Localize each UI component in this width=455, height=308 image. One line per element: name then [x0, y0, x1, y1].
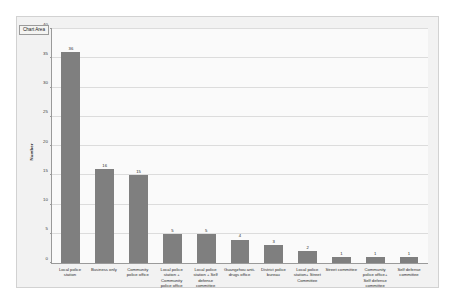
chart-area-tooltip: Chart Area [19, 25, 49, 35]
y-tick-label: 5 [46, 227, 48, 231]
x-axis-label: Local police station [53, 265, 87, 289]
x-axis-label: Business only [87, 265, 121, 289]
bar-slot: 16 [88, 29, 122, 263]
bar-value-label: 1 [408, 252, 410, 256]
bar[interactable]: 36 [61, 52, 80, 263]
y-axis-title: Number [29, 143, 34, 160]
bar[interactable]: 5 [163, 234, 182, 263]
bar[interactable]: 16 [95, 169, 114, 263]
bar-slot: 3 [257, 29, 291, 263]
bar-slot: 5 [189, 29, 223, 263]
chart-area[interactable]: Chart Area Number 0510152025303540 36161… [16, 16, 439, 288]
x-axis-label: Local police station+ Street Committee [290, 265, 324, 289]
bar-slot: 1 [392, 29, 426, 263]
bar[interactable]: 15 [129, 175, 148, 263]
bar-value-label: 15 [136, 170, 141, 174]
bar[interactable]: 4 [231, 240, 250, 263]
x-axis-label: Local police station + Community police … [155, 265, 189, 289]
y-tick-label: 25 [43, 110, 48, 114]
bar[interactable]: 2 [298, 251, 317, 263]
bar[interactable]: 1 [400, 257, 419, 263]
bar-value-label: 16 [102, 164, 107, 168]
y-tick-label: 35 [43, 52, 48, 56]
bar-value-label: 2 [306, 246, 308, 250]
y-tick-label: 30 [43, 81, 48, 85]
bar-slot: 36 [54, 29, 88, 263]
x-axis-label: District police bureau [256, 265, 290, 289]
bar-slot: 15 [122, 29, 156, 263]
bar[interactable]: 3 [264, 245, 283, 263]
bar-value-label: 5 [205, 229, 207, 233]
x-axis-label: Street committee [324, 265, 358, 289]
y-tick-label: 20 [43, 139, 48, 143]
bar-value-label: 3 [273, 240, 275, 244]
bar-slot: 4 [223, 29, 257, 263]
bar[interactable]: 1 [332, 257, 351, 263]
plot-area[interactable]: 0510152025303540 36161555432111 [51, 29, 428, 264]
bar-series[interactable]: 36161555432111 [52, 29, 428, 263]
y-tick-label: 10 [43, 198, 48, 202]
x-axis-label: Community police office+ Self defense co… [358, 265, 392, 289]
bar-value-label: 5 [171, 229, 173, 233]
bar-slot: 1 [358, 29, 392, 263]
x-axis-labels: Local police stationBusiness onlyCommuni… [51, 265, 428, 289]
bar-value-label: 4 [239, 234, 241, 238]
bar[interactable]: 1 [366, 257, 385, 263]
bar[interactable]: 5 [197, 234, 216, 263]
x-axis-label: Self defense committee [392, 265, 426, 289]
bar-slot: 5 [155, 29, 189, 263]
x-axis-label: Local police station + Self defense comm… [189, 265, 223, 289]
x-axis-label: Guangzhou anti-drugs office [223, 265, 257, 289]
bar-value-label: 36 [69, 47, 74, 51]
bar-slot: 2 [291, 29, 325, 263]
x-axis-label: Community police office [121, 265, 155, 289]
bar-slot: 1 [325, 29, 359, 263]
bar-value-label: 1 [340, 252, 342, 256]
y-tick-label: 15 [43, 169, 48, 173]
y-tick-label: 0 [46, 256, 48, 260]
bar-value-label: 1 [374, 252, 376, 256]
